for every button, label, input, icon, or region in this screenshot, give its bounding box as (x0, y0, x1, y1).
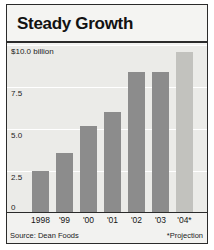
x-axis-tick-label: '00 (76, 215, 102, 225)
x-axis-tick-label: '02 (124, 215, 150, 225)
chart-figure: Steady Growth 02.55.07.5$10.0 billion 19… (0, 0, 214, 250)
x-axis-tick-label: '01 (100, 215, 126, 225)
title-band: Steady Growth (7, 5, 207, 43)
plot-area: 02.55.07.5$10.0 billion (7, 45, 207, 213)
chart-footer: Source: Dean Foods *Projection (7, 231, 207, 243)
x-axis-tick-label: '03 (148, 215, 174, 225)
bar (32, 171, 49, 213)
x-axis-tick-label: '99 (52, 215, 78, 225)
bar-series (7, 45, 207, 213)
bar (128, 72, 145, 213)
x-axis-line (7, 212, 207, 213)
bar (104, 112, 121, 213)
projection-note: *Projection (167, 231, 203, 240)
x-axis-tick-label: '04* (172, 215, 198, 225)
x-axis-tick-label: 1998 (28, 215, 54, 225)
chart-title: Steady Growth (17, 14, 133, 34)
bar (176, 52, 193, 213)
bar (152, 72, 169, 213)
bar (56, 153, 73, 213)
x-axis-tick-labels: 1998'99'00'01'02'03'04* (7, 215, 207, 228)
source-note: Source: Dean Foods (10, 231, 79, 240)
bar (80, 126, 97, 213)
